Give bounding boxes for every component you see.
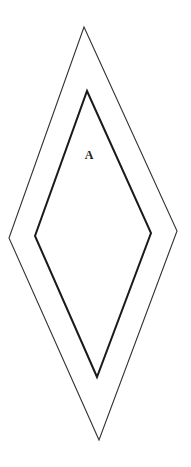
region-label-a: A (85, 148, 94, 162)
diagram-canvas: A (0, 0, 191, 467)
